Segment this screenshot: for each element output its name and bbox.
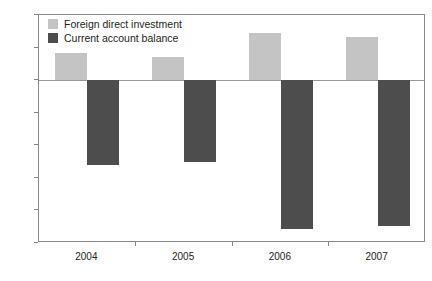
- bar-cab-2004: [87, 80, 119, 165]
- legend-swatch-cab: [48, 33, 58, 43]
- bar-cab-2007: [378, 80, 410, 226]
- x-tick-label: 2007: [329, 252, 425, 262]
- bar-fdi-2004: [55, 53, 87, 80]
- bar-cab-2006: [281, 80, 313, 229]
- x-tick-label: 2006: [232, 252, 328, 262]
- bar-fdi-2006: [249, 33, 281, 81]
- legend-swatch-fdi: [48, 19, 58, 29]
- x-tick-mark: [328, 242, 329, 246]
- x-tick-label: 2005: [135, 252, 231, 262]
- x-tick-mark: [232, 242, 233, 246]
- y-tick-mark: [34, 242, 38, 243]
- plot-area: [38, 14, 425, 242]
- legend-item-fdi: Foreign direct investment: [48, 19, 182, 30]
- bar-fdi-2007: [346, 37, 378, 80]
- chart-legend: Foreign direct investment Current accoun…: [48, 19, 182, 43]
- legend-label-fdi: Foreign direct investment: [64, 19, 182, 30]
- bar-cab-2005: [184, 80, 216, 161]
- bar-fdi-2005: [152, 57, 184, 80]
- legend-item-cab: Current account balance: [48, 33, 182, 44]
- x-tick-label: 2004: [38, 252, 134, 262]
- x-tick-mark: [135, 242, 136, 246]
- bar-chart: 1050-5-10-15-20-25 2004200520062007 Fore…: [0, 0, 432, 281]
- legend-label-cab: Current account balance: [64, 33, 178, 44]
